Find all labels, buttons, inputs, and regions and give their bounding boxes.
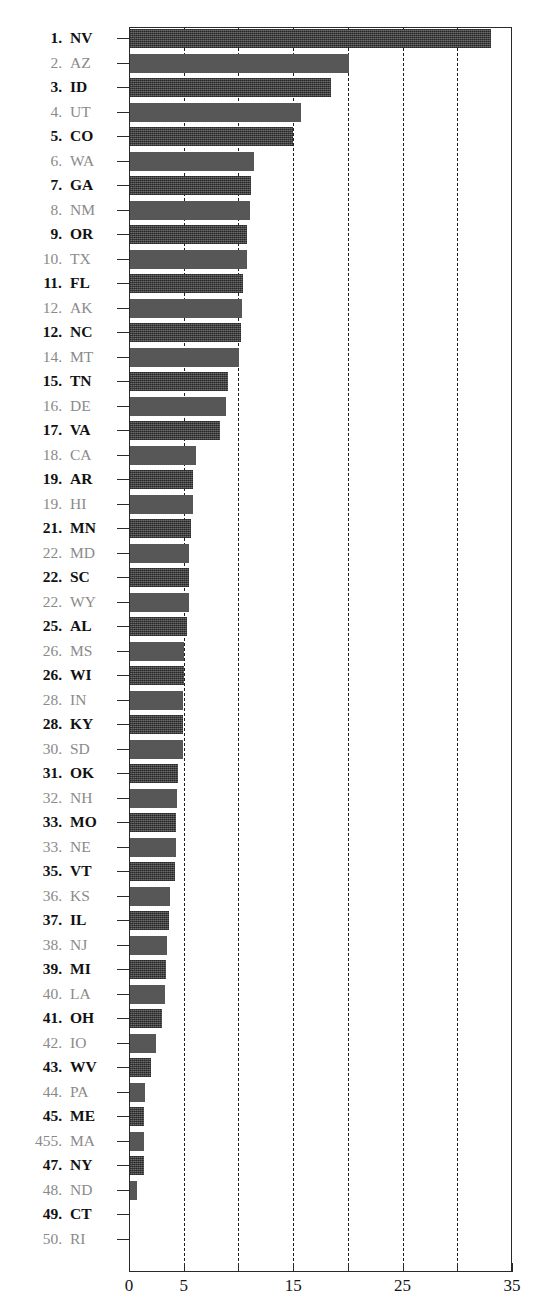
row-state-label: FL — [70, 273, 112, 292]
bar-chart: 1.NV2.AZ3.ID4.UT5.CO6.WA7.GA8.NM9.OR10.T… — [0, 0, 539, 1309]
row-rank: 14. — [14, 347, 62, 366]
row-state-label: NE — [70, 837, 112, 856]
x-tick-20 — [348, 1263, 349, 1272]
bar-row: 9.OR — [0, 223, 539, 248]
row-state-label: KY — [70, 714, 112, 733]
y-axis-tick — [117, 577, 129, 578]
x-axis-label: 25 — [383, 1276, 423, 1296]
bar — [130, 78, 331, 97]
row-state-label: MA — [70, 1131, 112, 1150]
x-tick-25 — [403, 1263, 404, 1272]
row-rank: 41. — [14, 1008, 62, 1027]
y-axis-tick — [117, 455, 129, 456]
bar — [130, 1058, 151, 1077]
bar — [130, 274, 243, 293]
y-axis-tick — [117, 1043, 129, 1044]
y-axis-tick — [117, 945, 129, 946]
bar-row: 15.TN — [0, 370, 539, 395]
bar-row: 11.FL — [0, 272, 539, 297]
row-rank: 40. — [14, 984, 62, 1003]
bar — [130, 862, 175, 881]
row-rank: 4. — [14, 102, 62, 121]
bar — [130, 1132, 144, 1151]
bar-row: 28.KY — [0, 713, 539, 738]
row-state-label: SD — [70, 739, 112, 758]
bar-row: 33.MO — [0, 811, 539, 836]
x-tick-10 — [238, 1263, 239, 1272]
row-rank: 50. — [14, 1229, 62, 1248]
row-rank: 31. — [14, 763, 62, 782]
bar — [130, 1107, 144, 1126]
row-state-label: NV — [70, 28, 112, 47]
y-axis-tick — [117, 332, 129, 333]
y-axis-tick — [117, 381, 129, 382]
row-state-label: LA — [70, 984, 112, 1003]
bar-row: 41.OH — [0, 1007, 539, 1032]
row-rank: 22. — [14, 567, 62, 586]
row-rank: 33. — [14, 837, 62, 856]
row-rank: 39. — [14, 959, 62, 978]
row-rank: 45. — [14, 1106, 62, 1125]
x-tick-35 — [512, 1263, 513, 1272]
bar — [130, 1034, 156, 1053]
row-rank: 6. — [14, 151, 62, 170]
bar — [130, 666, 184, 685]
bar-row: 22.MD — [0, 542, 539, 567]
row-state-label: CT — [70, 1204, 112, 1223]
bar-row: 19.AR — [0, 468, 539, 493]
row-state-label: PA — [70, 1082, 112, 1101]
bar-row: 45.ME — [0, 1105, 539, 1130]
bar-row: 10.TX — [0, 248, 539, 273]
y-axis-tick — [117, 1092, 129, 1093]
row-rank: 21. — [14, 518, 62, 537]
row-state-label: NM — [70, 200, 112, 219]
y-axis-tick — [117, 528, 129, 529]
row-state-label: AZ — [70, 53, 112, 72]
bar — [130, 421, 220, 440]
bar — [130, 568, 189, 587]
x-tick-0 — [129, 1263, 130, 1272]
bar — [130, 127, 293, 146]
row-state-label: NY — [70, 1155, 112, 1174]
bar — [130, 593, 189, 612]
row-state-label: AL — [70, 616, 112, 635]
bar-row: 2.AZ — [0, 52, 539, 77]
y-axis-tick — [117, 1214, 129, 1215]
bar-row: 37.IL — [0, 909, 539, 934]
row-state-label: NC — [70, 322, 112, 341]
bar — [130, 29, 491, 48]
bar — [130, 152, 254, 171]
y-axis-tick — [117, 357, 129, 358]
y-axis-tick — [117, 479, 129, 480]
row-state-label: MO — [70, 812, 112, 831]
row-rank: 5. — [14, 126, 62, 145]
y-axis-tick — [117, 749, 129, 750]
row-rank: 49. — [14, 1204, 62, 1223]
bar — [130, 985, 165, 1004]
bar-row: 35.VT — [0, 860, 539, 885]
row-rank: 35. — [14, 861, 62, 880]
bar — [130, 960, 166, 979]
y-axis-tick — [117, 553, 129, 554]
row-state-label: WI — [70, 665, 112, 684]
row-rank: 43. — [14, 1057, 62, 1076]
bar — [130, 617, 187, 636]
x-axis-label: 0 — [109, 1276, 149, 1296]
row-rank: 19. — [14, 494, 62, 513]
x-tick-5 — [184, 1263, 185, 1272]
bar — [130, 838, 176, 857]
row-state-label: IN — [70, 690, 112, 709]
row-rank: 26. — [14, 641, 62, 660]
row-state-label: WV — [70, 1057, 112, 1076]
row-state-label: ND — [70, 1180, 112, 1199]
y-axis-tick — [117, 504, 129, 505]
row-rank: 28. — [14, 714, 62, 733]
bar — [130, 176, 251, 195]
row-rank: 15. — [14, 371, 62, 390]
y-axis-tick — [117, 1116, 129, 1117]
bar — [130, 519, 191, 538]
bar — [130, 446, 196, 465]
row-rank: 37. — [14, 910, 62, 929]
row-rank: 18. — [14, 445, 62, 464]
bar — [130, 691, 183, 710]
